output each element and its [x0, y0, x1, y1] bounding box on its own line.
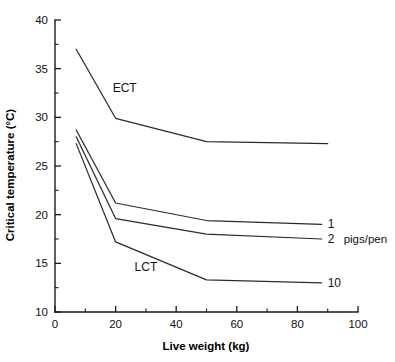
series-end-label: 1	[328, 217, 335, 231]
y-axis-tick-label: 10	[35, 306, 48, 318]
y-axis-tick-label: 35	[35, 63, 48, 75]
curve-label-lct: LCT	[135, 260, 158, 274]
chart-container: 10152025303540020406080100 ECTLCT 1210 L…	[0, 0, 395, 362]
y-axis-tick-label: 30	[35, 111, 48, 123]
critical-temperature-line-chart: 10152025303540020406080100 ECTLCT 1210 L…	[0, 0, 395, 362]
series-end-label: 2	[328, 232, 335, 246]
axes	[55, 20, 358, 312]
x-axis-tick-label: 60	[230, 318, 243, 330]
x-axis-tick-label: 100	[348, 318, 367, 330]
x-axis-tick-label: 20	[109, 318, 122, 330]
curve-label-ect: ECT	[113, 81, 138, 95]
x-axis-title: Live weight (kg)	[163, 340, 250, 352]
series-line	[76, 130, 321, 224]
x-axis-tick-label: 40	[170, 318, 183, 330]
x-axis-tick-label: 0	[52, 318, 58, 330]
y-axis-tick-label: 15	[35, 257, 48, 269]
legend-unit-label: pigs/pen	[344, 233, 387, 245]
series-end-label: 10	[328, 276, 342, 290]
y-axis-tick-label: 20	[35, 209, 48, 221]
y-axis-tick-label: 40	[35, 14, 48, 26]
series-end-labels: 1210	[328, 217, 342, 289]
y-axis-tick-label: 25	[35, 160, 48, 172]
x-axis-tick-label: 80	[291, 318, 304, 330]
curve-annotations: ECTLCT	[113, 81, 158, 274]
series-line	[76, 49, 327, 143]
axis-ticks	[55, 20, 358, 312]
y-axis-title: Critical temperature (°C)	[4, 109, 16, 242]
